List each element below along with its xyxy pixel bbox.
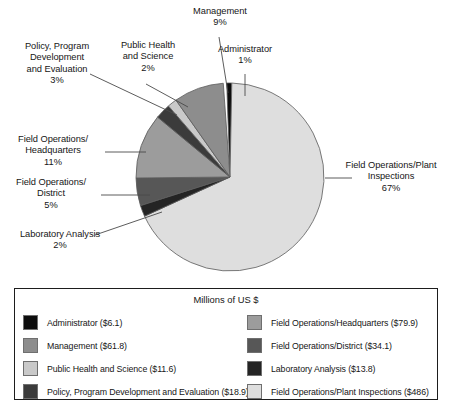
legend-item[interactable]: Policy, Program Development and Evaluati… — [23, 380, 251, 403]
legend-item-label: Field Operations/Headquarters ($79.9) — [271, 318, 418, 328]
legend-item[interactable]: Management ($61.8) — [23, 334, 251, 357]
legend-swatch — [23, 315, 38, 330]
legend-swatch — [247, 338, 262, 353]
legend-item[interactable]: Field Operations/Plant Inspections ($486… — [247, 380, 439, 403]
pie-label-plant-inspections: Field Operations/Plant Inspections 67% — [332, 160, 450, 194]
legend-column-left: Administrator ($6.1)Management ($61.8)Pu… — [23, 311, 251, 403]
pie-label-administrator: Administrator 1% — [196, 44, 294, 67]
pie-label-policy: Policy, Program Development and Evaluati… — [2, 41, 112, 87]
legend-item-label: Field Operations/Plant Inspections ($486… — [271, 387, 429, 397]
legend-item-label: Management ($61.8) — [47, 341, 127, 351]
legend-swatch — [247, 384, 262, 399]
legend: Millions of US $ Administrator ($6.1)Man… — [14, 288, 438, 400]
legend-column-right: Field Operations/Headquarters ($79.9)Fie… — [247, 311, 439, 403]
legend-swatch — [23, 338, 38, 353]
legend-item[interactable]: Public Health and Science ($11.6) — [23, 357, 251, 380]
legend-item-label: Laboratory Analysis ($13.8) — [271, 364, 375, 374]
legend-item-label: Field Operations/District ($34.1) — [271, 341, 392, 351]
legend-item[interactable]: Administrator ($6.1) — [23, 311, 251, 334]
legend-title: Millions of US $ — [15, 294, 437, 305]
pie-chart-area: Management 9% Public Health and Science … — [0, 0, 454, 280]
legend-item[interactable]: Laboratory Analysis ($13.8) — [247, 357, 439, 380]
legend-item[interactable]: Field Operations/District ($34.1) — [247, 334, 439, 357]
legend-item-label: Administrator ($6.1) — [47, 318, 122, 328]
legend-item[interactable]: Field Operations/Headquarters ($79.9) — [247, 311, 439, 334]
legend-item-label: Public Health and Science ($11.6) — [47, 364, 176, 374]
legend-swatch — [247, 315, 262, 330]
legend-swatch — [23, 361, 38, 376]
legend-swatch — [23, 384, 38, 399]
legend-swatch — [247, 361, 262, 376]
pie-label-laboratory: Laboratory Analysis 2% — [8, 229, 112, 252]
pie-label-headquarters: Field Operations/ Headquarters 11% — [2, 134, 104, 168]
pie-label-management: Management 9% — [150, 6, 290, 29]
pie-label-district: Field Operations/ District 5% — [2, 177, 100, 211]
pie-slices-group — [136, 83, 324, 271]
legend-item-label: Policy, Program Development and Evaluati… — [47, 387, 249, 397]
